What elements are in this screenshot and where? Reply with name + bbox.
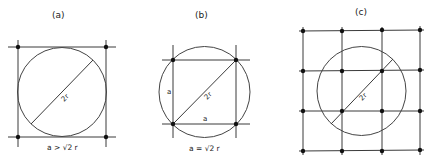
panel-b-title: (b)	[195, 10, 208, 20]
lattice-point	[380, 109, 384, 113]
lattice-line	[299, 30, 424, 31]
lattice-point	[301, 69, 305, 73]
lattice-point	[104, 135, 108, 139]
lattice-point	[418, 68, 422, 72]
lattice-point	[301, 109, 305, 113]
panel-b: (b) 2r a a a = √2 r	[159, 10, 250, 153]
lattice-line	[299, 70, 424, 71]
panel-a-title: (a)	[52, 10, 65, 20]
lattice-point	[234, 58, 238, 62]
lattice-point	[16, 45, 20, 49]
lattice-circle-figure: (a) 2r a > √2 r (b) 2r a a	[0, 0, 433, 163]
lattice-point	[171, 58, 175, 62]
lattice-point	[340, 69, 344, 73]
lattice-point	[234, 122, 238, 126]
lattice-point	[301, 29, 305, 33]
lattice-point	[418, 148, 422, 152]
lattice-point	[340, 109, 344, 113]
panel-c-title: (c)	[355, 7, 367, 17]
lattice-point	[104, 45, 108, 49]
diameter-line	[31, 60, 93, 124]
panel-b-caption: a = √2 r	[189, 144, 221, 153]
lattice-point	[16, 135, 20, 139]
lattice-point	[340, 29, 344, 33]
diameter-label: 2r	[60, 92, 71, 103]
lattice-point	[380, 28, 384, 32]
side-label-horizontal: a	[203, 115, 207, 123]
lattice-point	[340, 149, 344, 153]
lattice-line	[299, 150, 424, 151]
lattice-point	[380, 69, 384, 73]
lattice-point	[418, 109, 422, 113]
lattice-point	[418, 28, 422, 32]
panel-a-caption: a > √2 r	[47, 143, 79, 152]
panel-a: (a) 2r a > √2 r	[8, 10, 116, 152]
diameter-label: 2r	[358, 91, 369, 102]
lattice-point	[380, 149, 384, 153]
side-label-vertical: a	[167, 88, 171, 96]
lattice-point	[171, 122, 175, 126]
lattice-point	[301, 149, 305, 153]
panel-c: (c) 2r	[299, 7, 424, 155]
